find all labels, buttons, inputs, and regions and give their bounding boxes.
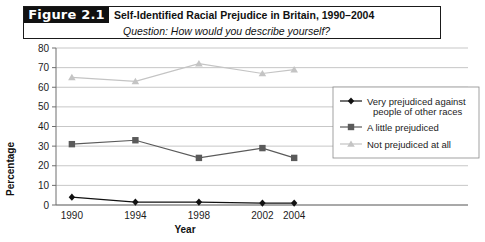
x-tick-label: 1998 <box>188 210 211 221</box>
y-axis-ticks: 01020304050607080 <box>38 43 56 211</box>
y-tick-label: 70 <box>38 62 50 73</box>
y-tick-label: 0 <box>43 200 49 211</box>
figure-root: Figure 2.1 Self-Identified Racial Prejud… <box>0 0 485 242</box>
data-point-marker <box>291 155 297 161</box>
data-point-marker <box>69 194 75 201</box>
data-point-marker <box>291 199 297 206</box>
data-point-marker <box>196 155 202 161</box>
y-tick-label: 20 <box>38 160 50 171</box>
chart-area: 01020304050607080 19901994199820022004 P… <box>0 41 485 242</box>
x-tick-label: 1990 <box>61 210 84 221</box>
data-point-marker <box>69 141 75 147</box>
y-tick-label: 40 <box>38 121 50 132</box>
data-point-marker <box>259 145 265 151</box>
legend-label: A little prejudiced <box>367 122 439 133</box>
figure-title: Self-Identified Racial Prejudice in Brit… <box>114 8 436 23</box>
series-line <box>72 64 294 82</box>
figure-number-tag: Figure 2.1 <box>24 7 109 23</box>
chart-legend: Very prejudiced againstpeople of other r… <box>333 87 479 158</box>
figure-subtitle: Question: How would you describe yoursel… <box>123 24 438 38</box>
x-tick-label: 1994 <box>124 210 147 221</box>
y-tick-label: 60 <box>38 82 50 93</box>
x-axis-title: Year <box>174 224 195 235</box>
legend-label: Very prejudiced against <box>367 96 466 107</box>
data-point-marker <box>348 124 354 130</box>
legend-label: Not prejudiced at all <box>367 139 451 150</box>
data-point-marker <box>195 60 203 66</box>
legend-label-continued: people of other races <box>373 106 463 117</box>
x-tick-label: 2004 <box>283 210 306 221</box>
y-axis-title: Percentage <box>5 142 16 196</box>
y-tick-label: 80 <box>38 43 50 54</box>
y-tick-label: 30 <box>38 141 50 152</box>
x-axis-ticks: 19901994199820022004 <box>61 210 306 221</box>
line-chart: 01020304050607080 19901994199820022004 P… <box>0 41 485 242</box>
data-point-marker <box>290 66 298 72</box>
y-tick-label: 10 <box>38 180 50 191</box>
data-point-marker <box>132 137 138 143</box>
figure-caption-box: Figure 2.1 Self-Identified Racial Prejud… <box>23 6 441 39</box>
y-tick-label: 50 <box>38 101 50 112</box>
data-point-marker <box>259 199 265 206</box>
data-series-layer <box>68 60 298 207</box>
x-tick-label: 2002 <box>251 210 274 221</box>
